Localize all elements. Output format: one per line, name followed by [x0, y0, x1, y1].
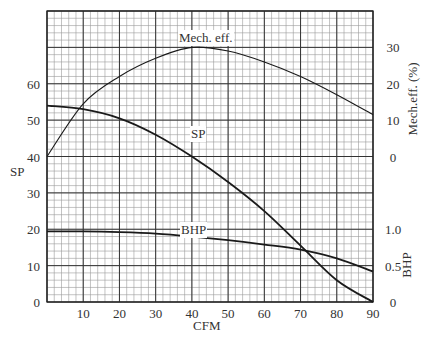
x-tick-label: 20 [113, 306, 126, 321]
curve-label-sp: SP [190, 126, 206, 142]
x-tick-label: 80 [330, 306, 343, 321]
right-tick-label-bhp: 1.0 [385, 222, 401, 237]
curve-label-mech-eff: Mech. eff. [178, 30, 234, 46]
x-axis-label: CFM [193, 318, 220, 334]
y-tick-label: 20 [27, 222, 40, 237]
y-tick-label: 60 [27, 77, 40, 92]
curve-sp [47, 106, 373, 302]
x-tick-label: 30 [149, 306, 162, 321]
y-axis-label-mech-eff: Mech.eff. (%) [405, 54, 421, 144]
right-tick-label-eff: 20 [387, 77, 400, 92]
y-tick-label: 10 [27, 259, 40, 274]
x-tick-label: 70 [294, 306, 307, 321]
x-tick-label: 10 [77, 306, 90, 321]
right-tick-label-bhp: 0 [390, 295, 397, 310]
right-tick-label-eff: 0 [390, 150, 397, 165]
curve-mech-eff [47, 47, 373, 156]
y-tick-label: 40 [27, 150, 40, 165]
x-tick-label: 90 [367, 306, 380, 321]
y-tick-label: 0 [34, 295, 41, 310]
x-tick-label: 50 [222, 306, 235, 321]
y-axis-label-bhp: BHP [399, 250, 415, 280]
y-axis-label-sp: SP [10, 164, 24, 180]
right-tick-label-eff: 10 [387, 113, 400, 128]
right-tick-label-eff: 30 [387, 40, 400, 55]
x-tick-label: 60 [258, 306, 271, 321]
curve-label-bhp: BHP [180, 222, 207, 238]
y-tick-label: 50 [27, 113, 40, 128]
y-tick-label: 30 [27, 186, 40, 201]
